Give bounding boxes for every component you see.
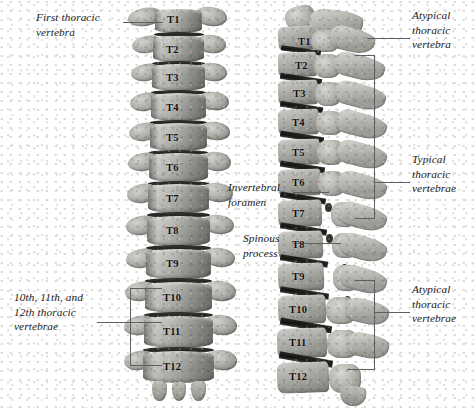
bracket-arm-typical-bottom bbox=[355, 218, 375, 219]
vertebra-label-t6: T6 bbox=[292, 177, 305, 188]
vertebra-label-t11: T11 bbox=[163, 326, 181, 337]
vertebra-label-t2: T2 bbox=[295, 60, 308, 71]
bracket-stem-atypical-lower bbox=[375, 312, 410, 313]
vertebra-label-t5: T5 bbox=[292, 147, 305, 158]
vertebra-label-t9: T9 bbox=[292, 271, 305, 282]
bracket-spine-atypical-lower bbox=[374, 280, 375, 370]
vertebra-label-t12: T12 bbox=[289, 371, 307, 382]
vertebra-label-t1: T1 bbox=[167, 14, 180, 25]
leader-atypical-thoracic-vertebra-upper bbox=[367, 38, 410, 39]
vertebra-label-t9: T9 bbox=[166, 258, 179, 269]
vertebra-label-t4: T4 bbox=[166, 102, 179, 113]
t4-spinous-process bbox=[333, 107, 389, 144]
t3-spinous-process bbox=[332, 78, 388, 115]
vertebra-label-t7: T7 bbox=[292, 208, 305, 219]
annotation-typical-thoracic-vertebrae: Typical thoracic vertebrae bbox=[412, 152, 474, 196]
bracket-arm-atypical-bottom bbox=[347, 369, 375, 370]
leader-invertebral-foramen bbox=[293, 192, 329, 193]
vertebra-label-t5: T5 bbox=[166, 132, 179, 143]
thoracic-spine-figure: T1 T2 T3 T4 T5 T6 T7 T8 T9 T10 T11 T12 bbox=[0, 0, 474, 408]
t12-inferior-process bbox=[339, 385, 367, 408]
vertebra-label-t11: T11 bbox=[289, 337, 307, 348]
t12-inferior-process-left bbox=[152, 381, 167, 401]
vertebra-label-t4: T4 bbox=[292, 117, 305, 128]
annotation-atypical-thoracic-vertebrae-lower: Atypical thoracic vertebrae bbox=[412, 282, 474, 326]
vertebra-label-t12: T12 bbox=[163, 361, 181, 372]
t7-spinous-process bbox=[336, 199, 390, 236]
leader-first-thoracic-vertebra bbox=[123, 22, 163, 23]
vertebra-label-t6: T6 bbox=[166, 162, 179, 173]
vertebra-label-t2: T2 bbox=[166, 44, 179, 55]
t5-spinous-process bbox=[334, 137, 389, 173]
vertebra-label-t3: T3 bbox=[293, 88, 306, 99]
t6-spinous-process bbox=[335, 168, 390, 204]
bracket-spine-lower-thoracic bbox=[130, 288, 131, 366]
bracket-spine-typical-thoracic bbox=[374, 55, 375, 219]
annotation-lower-thoracic-vertebrae: 10th, 11th, and 12th thoracic vertebrae bbox=[14, 290, 124, 334]
bracket-arm-typical-top bbox=[355, 55, 375, 56]
vertebra-label-t8: T8 bbox=[292, 239, 305, 250]
vertebra-label-t3: T3 bbox=[166, 72, 179, 83]
annotation-atypical-thoracic-vertebra-upper: Atypical thoracic vertebra bbox=[412, 8, 474, 52]
bracket-stem-typical-thoracic bbox=[375, 182, 410, 183]
annotation-first-thoracic-vertebra: First thoracic vertebra bbox=[36, 10, 141, 39]
vertebra-label-t10: T10 bbox=[163, 292, 181, 303]
bracket-stem-lower-thoracic bbox=[97, 322, 131, 323]
bracket-arm-t11 bbox=[130, 322, 162, 323]
vertebra-label-t1: T1 bbox=[298, 36, 311, 47]
vertebra-label-t10: T10 bbox=[289, 304, 307, 315]
t12-inferior-process-center bbox=[172, 382, 186, 401]
bracket-arm-atypical-top bbox=[355, 280, 375, 281]
bracket-arm-t12 bbox=[130, 365, 162, 366]
annotation-invertebral-foramen: Invertebral foramen bbox=[228, 180, 300, 209]
t11-spinous-process bbox=[345, 330, 391, 362]
anterior-view-panel: T1 T2 T3 T4 T5 T6 T7 T8 T9 T10 T11 T12 bbox=[0, 0, 237, 408]
bracket-arm-t10 bbox=[130, 288, 162, 289]
vertebra-label-t8: T8 bbox=[166, 225, 179, 236]
t8-spinous-process bbox=[337, 230, 390, 266]
vertebra-label-t7: T7 bbox=[166, 193, 179, 204]
t12-inferior-process-right bbox=[191, 381, 206, 401]
